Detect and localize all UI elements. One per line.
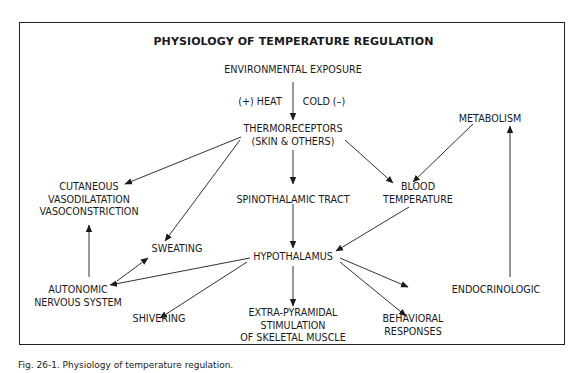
- node-shivering: SHIVERING: [133, 313, 186, 326]
- node-sweating: SWEATING: [152, 243, 203, 256]
- node-thermoreceptors: THERMORECEPTORS (SKIN & OTHERS): [243, 123, 342, 148]
- arrow-thermo-to-sweating: [165, 140, 240, 241]
- arrow-hypothalamus-to-endocrinologic: [340, 258, 408, 287]
- node-cutaneous: CUTANEOUS VASODILATATION VASOCONSTRICTIO…: [39, 181, 138, 219]
- label-thermoreceptors: THERMORECEPTORS: [243, 123, 342, 136]
- node-environmental-exposure: ENVIRONMENTAL EXPOSURE: [224, 64, 361, 77]
- arrow-hypothalamus-to-ans: [110, 258, 250, 285]
- node-blood-temperature: BLOOD TEMPERATURE: [383, 181, 453, 206]
- label-extra-pyramidal: EXTRA-PYRAMIDAL: [240, 307, 346, 320]
- label-cutaneous: CUTANEOUS: [39, 181, 138, 194]
- label-skin-others: (SKIN & OTHERS): [243, 136, 342, 149]
- label-vasoconstriction: VASOCONSTRICTION: [39, 206, 138, 219]
- label-vasodilatation: VASODILATATION: [39, 194, 138, 207]
- label-cold: COLD (–): [303, 96, 345, 109]
- arrow-thermo-to-blood: [345, 140, 393, 183]
- node-metabolism: METABOLISM: [459, 113, 522, 126]
- node-behavioral-responses: BEHAVIORAL RESPONSES: [383, 313, 444, 338]
- figure-caption: Fig. 26-1. Physiology of temperature reg…: [18, 360, 233, 370]
- arrow-hypothalamus-to-shivering: [160, 262, 247, 318]
- arrow-blood-to-hypothalamus: [336, 207, 409, 251]
- arrow-hypothalamus-to-behavioral: [340, 262, 406, 316]
- label-heat: (+) HEAT: [238, 96, 282, 109]
- label-environmental-exposure: ENVIRONMENTAL EXPOSURE: [224, 64, 361, 75]
- label-skeletal-muscle: OF SKELETAL MUSCLE: [240, 332, 346, 345]
- diagram-title: PHYSIOLOGY OF TEMPERATURE REGULATION: [0, 35, 587, 48]
- label-behavioral: BEHAVIORAL: [383, 313, 444, 326]
- label-stimulation: STIMULATION: [240, 320, 346, 333]
- node-hypothalamus: HYPOTHALAMUS: [253, 251, 333, 264]
- label-blood: BLOOD: [383, 181, 453, 194]
- node-spinothalamic-tract: SPINOTHALAMIC TRACT: [236, 194, 349, 207]
- label-nervous-system: NERVOUS SYSTEM: [34, 297, 122, 310]
- node-extra-pyramidal: EXTRA-PYRAMIDAL STIMULATION OF SKELETAL …: [240, 307, 346, 345]
- label-autonomic: AUTONOMIC: [34, 284, 122, 297]
- node-autonomic-nervous-system: AUTONOMIC NERVOUS SYSTEM: [34, 284, 122, 309]
- node-endocrinologic: ENDOCRINOLOGIC: [452, 284, 541, 297]
- label-temperature: TEMPERATURE: [383, 194, 453, 207]
- arrow-thermo-to-cutaneous: [125, 137, 241, 184]
- label-responses: RESPONSES: [383, 326, 444, 339]
- arrow-ans-to-sweating: [117, 258, 148, 281]
- arrow-metabolism-to-blood: [413, 124, 473, 182]
